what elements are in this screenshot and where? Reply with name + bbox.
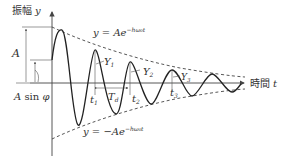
offset-label: A sin φ <box>13 91 49 102</box>
damped-wave-curve <box>52 30 241 125</box>
peak-2-label: Y2 <box>143 66 154 78</box>
peak-1-label: Y1 <box>104 56 114 68</box>
time-2-label: t2 <box>132 93 140 105</box>
peak-3-label: Y3 <box>181 72 191 83</box>
x-axis-label: 時間t <box>250 78 278 89</box>
phi-arc <box>35 70 39 82</box>
period-label: Td <box>108 91 119 103</box>
amplitude-label: A <box>11 47 20 60</box>
damped-vibration-diagram: 振幅y 時間t A A sin φ y = Ae−hω₀t y = −Ae−hω… <box>0 0 288 164</box>
time-3-label: t3 <box>170 87 178 99</box>
y-axis-label: 振幅y <box>12 4 41 16</box>
time-1-label: t1 <box>90 94 98 106</box>
upper-envelope-label: y = Ae−hω₀t <box>92 26 146 38</box>
lower-envelope-label: y = −Ae−hω₀t <box>82 125 144 137</box>
lower-envelope <box>52 89 245 139</box>
